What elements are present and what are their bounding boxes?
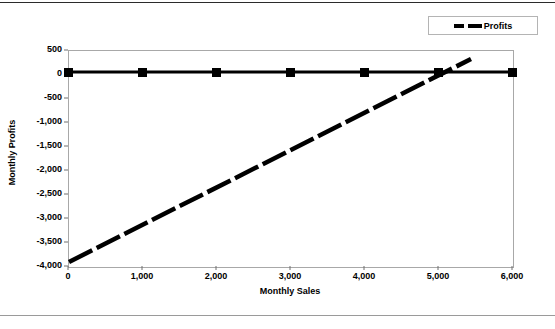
x-axis-title: Monthly Sales bbox=[68, 286, 512, 297]
plot-area bbox=[68, 50, 514, 268]
x-tick-label: 5,000 bbox=[408, 271, 468, 281]
page-rule-top bbox=[0, 2, 555, 3]
legend-item-profits[interactable]: Profits bbox=[454, 21, 513, 31]
x-tick-label: 2,000 bbox=[186, 271, 246, 281]
page-rule-bottom bbox=[0, 315, 555, 316]
x-tick-label: 1,000 bbox=[112, 271, 172, 281]
x-tick-label: 3,000 bbox=[260, 271, 320, 281]
x-tick-label: 6,000 bbox=[482, 271, 542, 281]
legend-dashed-line-icon bbox=[454, 24, 482, 28]
x-tick-label: 4,000 bbox=[334, 271, 394, 281]
chart-legend[interactable]: Profits bbox=[428, 16, 538, 35]
x-tick-label: 0 bbox=[38, 271, 98, 281]
y-axis-title: Monthly Profits bbox=[7, 108, 18, 198]
legend-label-profits: Profits bbox=[484, 21, 513, 31]
chart-page: Profits bbox=[0, 0, 555, 329]
